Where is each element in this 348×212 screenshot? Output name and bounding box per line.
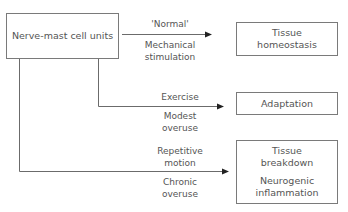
source-node-label: Nerve-mast cell units [12, 30, 113, 42]
branch-2-label-below: Modest overuse [140, 111, 220, 134]
branch-1-label-above: 'Normal' [130, 19, 210, 31]
target-node-tissue-homeostasis: Tissue homeostasis [236, 22, 338, 56]
arrowhead-icon [217, 104, 224, 110]
branch-1-label-below: Mechanical stimulation [130, 40, 210, 63]
branch-3-label-above: Repetitive motion [140, 146, 220, 169]
branch-3-label-below: Chronic overuse [140, 177, 220, 200]
source-node-nerve-mast-cell-units: Nerve-mast cell units [6, 13, 119, 59]
arrowhead-icon [205, 32, 212, 38]
target-node-adaptation: Adaptation [236, 92, 338, 115]
target-node-tissue-breakdown: Tissue breakdown Neurogenic inflammation [236, 140, 338, 204]
branch-2-label-above: Exercise [140, 92, 220, 104]
arrowhead-icon [222, 169, 229, 175]
